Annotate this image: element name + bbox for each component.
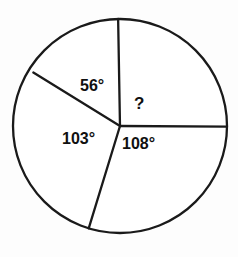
sector-label-56: 56° [80, 78, 104, 94]
pie-chart-figure: 56° ? 103° 108° [0, 0, 238, 257]
pie-chart-svg [0, 0, 238, 257]
sector-label-108: 108° [122, 136, 155, 152]
sector-label-103: 103° [62, 131, 95, 147]
radius-line-right [120, 126, 227, 127]
sector-label-unknown: ? [134, 95, 144, 112]
